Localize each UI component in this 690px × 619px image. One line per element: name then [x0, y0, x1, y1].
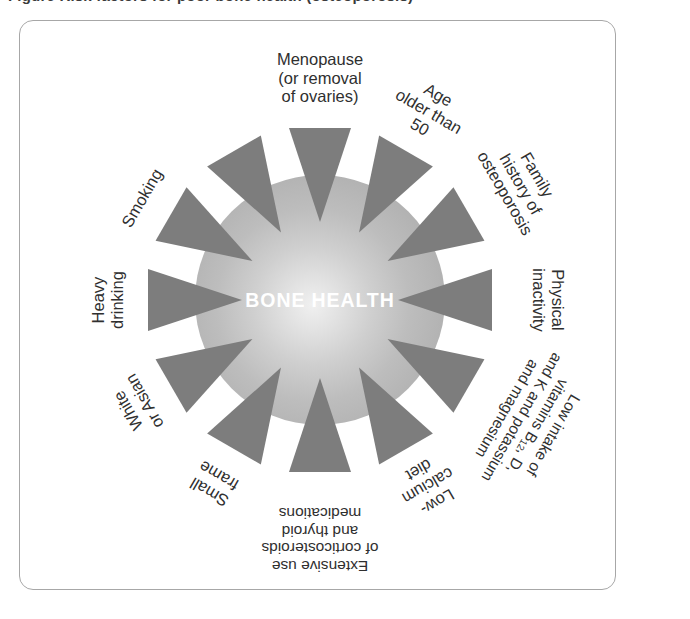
factor-label-heavy-drinking: Heavydrinking — [89, 271, 126, 329]
diagram-page: Figure Risk factors for poor bone health… — [0, 0, 690, 619]
factor-label-physical-inactivity: Physicalinactivity — [529, 268, 566, 331]
radial-diagram: BONE HEALTH Menopause(or removalof ovari… — [0, 0, 690, 619]
factor-label-extensive-use-of-corticosteroids: Extensive useof corticosteroidsand thyro… — [261, 505, 378, 575]
arrow-triangle — [207, 136, 308, 248]
factor-label-menopause: Menopause(or removalof ovaries) — [277, 50, 363, 106]
